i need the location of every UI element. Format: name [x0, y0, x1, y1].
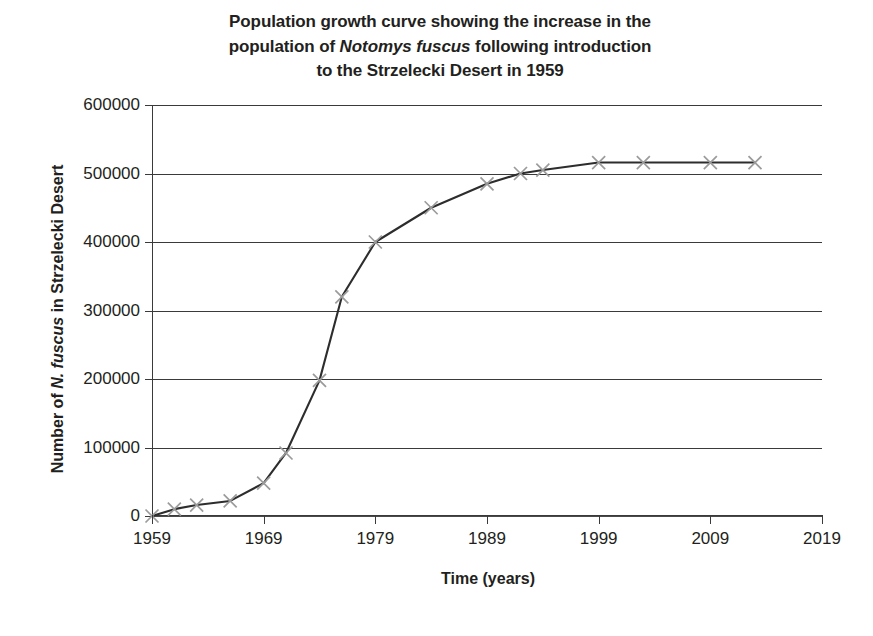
x-tick-label: 1979 [356, 529, 394, 549]
y-tick-mark [145, 448, 152, 449]
x-tick-label: 1989 [468, 529, 506, 549]
y-axis-title-prefix: Number of [49, 389, 66, 473]
y-tick-label: 0 [131, 506, 140, 526]
chart-title-line-2-suffix: following introduction [470, 37, 651, 56]
population-curve [152, 163, 755, 516]
x-tick-mark [822, 515, 823, 524]
chart-title-species-name: Notomys fuscus [340, 37, 471, 56]
population-growth-figure: Population growth curve showing the incr… [0, 0, 873, 636]
y-tick-mark [145, 311, 152, 312]
y-tick-mark [145, 105, 152, 106]
x-tick-mark [710, 515, 711, 524]
data-point-marker [481, 177, 494, 190]
y-tick-label: 300000 [83, 301, 140, 321]
plot-area: 0100000200000300000400000500000600000 [152, 105, 822, 515]
data-point-marker [369, 236, 382, 249]
data-point-marker [313, 374, 326, 387]
chart-title-line-1: Population growth curve showing the incr… [229, 12, 651, 31]
y-tick-label: 400000 [83, 232, 140, 252]
x-tick-label: 2019 [803, 529, 841, 549]
x-tick-label: 1959 [133, 529, 171, 549]
data-point-marker [335, 290, 348, 303]
data-point-marker [425, 201, 438, 214]
x-tick-mark [487, 515, 488, 524]
y-tick-mark [145, 379, 152, 380]
x-tick-mark [152, 515, 153, 524]
y-axis-title-species-name: N. fuscus [49, 317, 66, 389]
y-tick-label: 500000 [83, 164, 140, 184]
y-tick-label: 200000 [83, 369, 140, 389]
x-tick-label: 1999 [580, 529, 618, 549]
y-axis-title: Number of N. fuscus in Strzelecki Desert [49, 109, 67, 529]
x-tick-label: 1969 [245, 529, 283, 549]
chart-title-line-3: to the Strzelecki Desert in 1959 [316, 61, 563, 80]
y-axis-title-suffix: in Strzelecki Desert [49, 165, 66, 317]
x-tick-mark [599, 515, 600, 524]
data-point-marker [280, 446, 293, 459]
y-tick-mark [145, 242, 152, 243]
x-tick-mark [375, 515, 376, 524]
y-tick-label: 600000 [83, 95, 140, 115]
y-tick-mark [145, 174, 152, 175]
x-tick-mark [264, 515, 265, 524]
data-series-layer [152, 105, 822, 516]
data-point-marker [257, 477, 270, 490]
x-tick-label: 2009 [691, 529, 729, 549]
x-axis-title: Time (years) [152, 570, 824, 588]
chart-title-line-2-prefix: population of [229, 37, 340, 56]
y-tick-label: 100000 [83, 438, 140, 458]
data-point-markers [146, 156, 762, 522]
chart-title: Population growth curve showing the incr… [140, 10, 740, 84]
